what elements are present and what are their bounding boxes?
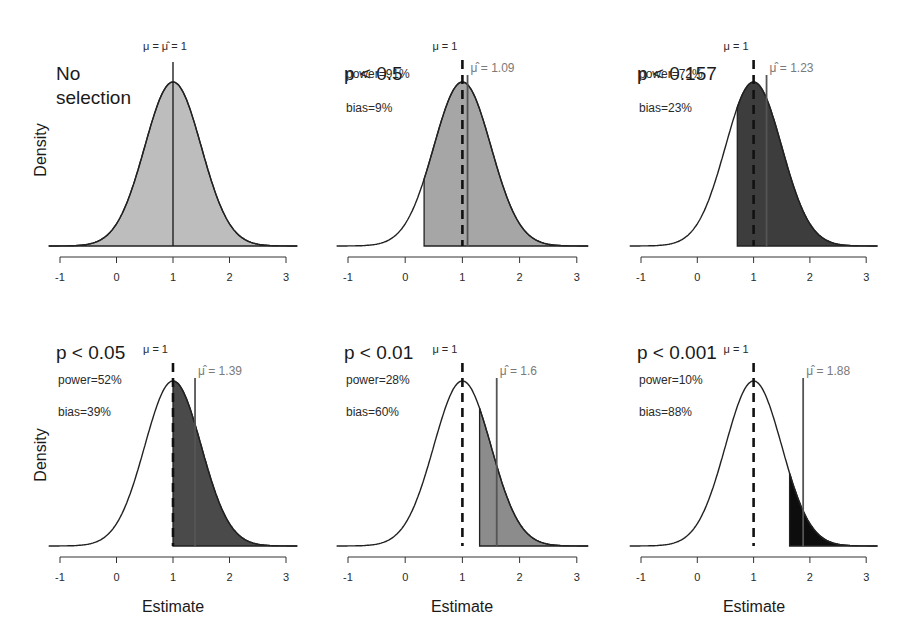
x-tick-label: -1 — [343, 571, 353, 583]
x-tick-label: 0 — [402, 571, 408, 583]
mu-label: μ = 1 — [724, 343, 749, 355]
x-tick-label: 0 — [694, 271, 700, 283]
panel-title: p < 0.001 — [637, 342, 717, 363]
x-tick-label: 1 — [170, 271, 176, 283]
muhat-label: μ̂ = 1.09 — [471, 61, 515, 75]
shaded-selection-region — [737, 82, 877, 246]
x-tick-label: 3 — [283, 571, 289, 583]
mu-label: μ = 1 — [143, 343, 168, 355]
bias-label: bias=88% — [639, 405, 692, 419]
mu-label: μ = 1 — [432, 343, 457, 355]
muhat-label: μ̂ = 1.88 — [806, 364, 850, 378]
power-label: power=28% — [346, 373, 410, 387]
panel-title: p < 0.05 — [56, 342, 125, 363]
x-tick-label: 1 — [459, 571, 465, 583]
shaded-selection-region — [173, 381, 297, 546]
x-tick-label: 2 — [517, 271, 523, 283]
x-tick-label: 2 — [807, 571, 813, 583]
panel-6: -10123p < 0.001μ = 1μ̂ = 1.88power=10%bi… — [630, 342, 878, 583]
x-tick-label: 0 — [113, 571, 119, 583]
mu-label: μ = 1 — [432, 40, 457, 52]
x-tick-label: 3 — [863, 571, 869, 583]
x-tick-label: 2 — [807, 271, 813, 283]
muhat-label: μ̂ = 1.6 — [500, 364, 538, 378]
panel-title: No — [56, 63, 80, 84]
x-tick-label: 0 — [402, 271, 408, 283]
x-axis-label-col2: Estimate — [431, 598, 493, 615]
x-tick-label: -1 — [55, 271, 65, 283]
x-tick-label: 3 — [863, 271, 869, 283]
bias-label: bias=23% — [639, 101, 692, 115]
x-tick-label: -1 — [55, 571, 65, 583]
x-tick-label: -1 — [636, 271, 646, 283]
y-axis-label-bottom: Density — [32, 428, 49, 481]
x-tick-label: 1 — [751, 271, 757, 283]
bias-label: bias=39% — [58, 405, 111, 419]
panel-1: -10123Noselectionμ = μ̂ = 1 — [49, 40, 298, 283]
power-label: power=10% — [639, 373, 703, 387]
x-tick-label: 3 — [574, 571, 580, 583]
x-axis-label-col1: Estimate — [142, 598, 204, 615]
x-tick-label: -1 — [636, 571, 646, 583]
x-tick-label: 1 — [459, 271, 465, 283]
x-tick-label: 3 — [283, 271, 289, 283]
x-tick-label: -1 — [343, 271, 353, 283]
panel-title: p < 0.01 — [344, 342, 413, 363]
x-axis-label-col3: Estimate — [723, 598, 785, 615]
x-tick-label: 2 — [226, 271, 232, 283]
panels-container: -10123Noselectionμ = μ̂ = 1-10123p < 0.5… — [49, 40, 878, 583]
power-label: power=72% — [639, 67, 703, 81]
panel-title: selection — [56, 87, 131, 108]
panel-2: -10123p < 0.5μ = 1μ̂ = 1.09power=91%bias… — [337, 40, 589, 283]
mu-label: μ = 1 — [724, 40, 749, 52]
muhat-label: μ̂ = 1.23 — [770, 61, 814, 75]
selection-bias-figure: Density Density Estimate Estimate Estima… — [0, 0, 905, 636]
y-axis-label-top: Density — [32, 123, 49, 176]
x-tick-label: 2 — [517, 571, 523, 583]
bias-label: bias=60% — [346, 405, 399, 419]
x-tick-label: 1 — [751, 571, 757, 583]
x-tick-label: 1 — [170, 571, 176, 583]
power-label: power=52% — [58, 373, 122, 387]
panel-5: -10123p < 0.01μ = 1μ̂ = 1.6power=28%bias… — [337, 342, 589, 583]
power-label: power=91% — [346, 67, 410, 81]
x-tick-label: 2 — [226, 571, 232, 583]
bias-label: bias=9% — [346, 101, 393, 115]
x-tick-label: 3 — [574, 271, 580, 283]
muhat-label: μ̂ = 1.39 — [198, 364, 242, 378]
x-tick-label: 0 — [113, 271, 119, 283]
x-tick-label: 0 — [694, 571, 700, 583]
shaded-selection-region — [424, 82, 588, 246]
panel-3: -10123p < 0.157μ = 1μ̂ = 1.23power=72%bi… — [630, 40, 878, 283]
mu-label: μ = μ̂ = 1 — [143, 40, 187, 52]
panel-4: -10123p < 0.05μ = 1μ̂ = 1.39power=52%bia… — [49, 342, 298, 583]
